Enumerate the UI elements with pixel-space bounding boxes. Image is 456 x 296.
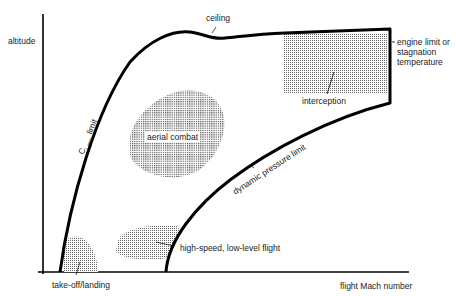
engine-limit-label: engine limit or stagnation temperature bbox=[397, 37, 450, 67]
y-axis-label: altitude bbox=[8, 36, 35, 46]
region-takeoff-landing bbox=[62, 236, 98, 272]
aerial-combat-label: aerial combat bbox=[145, 132, 200, 142]
ceiling-label: ceiling bbox=[206, 13, 230, 23]
high-speed-low-level-label: high-speed, low-level flight bbox=[180, 243, 280, 253]
interception-label: interception bbox=[302, 96, 346, 106]
region-interception bbox=[284, 34, 388, 94]
x-axis-label: flight Mach number bbox=[340, 281, 412, 291]
takeoff-landing-label: take-off/landing bbox=[52, 280, 110, 290]
engine-limit-line-2: stagnation bbox=[397, 47, 450, 57]
engine-limit-line-3: temperature bbox=[397, 57, 450, 67]
engine-limit-line-1: engine limit or bbox=[397, 37, 450, 47]
ceiling-leader bbox=[212, 27, 216, 33]
